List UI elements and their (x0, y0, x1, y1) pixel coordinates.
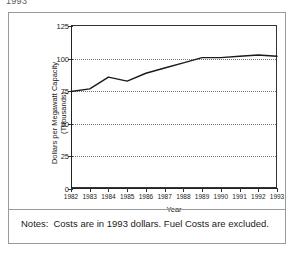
x-tick-label-1983: 1983 (82, 193, 96, 200)
notes-label: Notes: (21, 218, 48, 229)
y-tick-label-125: 125 (56, 22, 69, 31)
x-tick-label-1986: 1986 (139, 193, 153, 200)
notes-row: Notes:Costs are in 1993 dollars. Fuel Co… (21, 218, 277, 229)
x-tick-mark-1989 (202, 188, 203, 192)
x-tick-mark-1990 (221, 188, 222, 192)
x-tick-label-1991: 1991 (232, 193, 246, 200)
x-tick-label-1985: 1985 (120, 193, 134, 200)
notes-divider (9, 209, 285, 210)
top-clipped-caption: 1993 (6, 0, 27, 6)
x-axis-line (71, 188, 277, 189)
x-tick-mark-1993 (277, 188, 278, 192)
y-tick-label-75: 75 (61, 87, 69, 96)
x-tick-mark-1992 (258, 188, 259, 192)
y-tick-label-100: 100 (56, 54, 69, 63)
x-tick-label-1982: 1982 (64, 193, 78, 200)
x-tick-label-1987: 1987 (157, 193, 171, 200)
x-tick-label-1993: 1993 (270, 193, 284, 200)
x-tick-mark-1991 (240, 188, 241, 192)
x-tick-mark-1983 (90, 188, 91, 192)
x-tick-mark-1984 (108, 188, 109, 192)
data-series-line (71, 25, 277, 188)
x-tick-label-1984: 1984 (101, 193, 115, 200)
x-tick-mark-1985 (127, 188, 128, 192)
x-tick-mark-1982 (71, 188, 72, 192)
x-tick-label-1989: 1989 (195, 193, 209, 200)
x-tick-label-1988: 1988 (176, 193, 190, 200)
x-tick-mark-1987 (165, 188, 166, 192)
y-tick-label-25: 25 (61, 152, 69, 161)
notes-text: Costs are in 1993 dollars. Fuel Costs ar… (53, 218, 268, 229)
x-tick-label-1992: 1992 (251, 193, 265, 200)
y-tick-label-50: 50 (61, 119, 69, 128)
plot-region: Dollars per Megawatt Capacity (Thousands… (61, 25, 277, 201)
x-tick-label-1990: 1990 (214, 193, 228, 200)
y-axis-title: Dollars per Megawatt Capacity (Thousands… (50, 62, 68, 164)
y-axis-title-line1: Dollars per Megawatt Capacity (50, 62, 59, 164)
x-tick-mark-1986 (146, 188, 147, 192)
figure-frame: Dollars per Megawatt Capacity (Thousands… (8, 12, 286, 244)
x-tick-mark-1988 (183, 188, 184, 192)
